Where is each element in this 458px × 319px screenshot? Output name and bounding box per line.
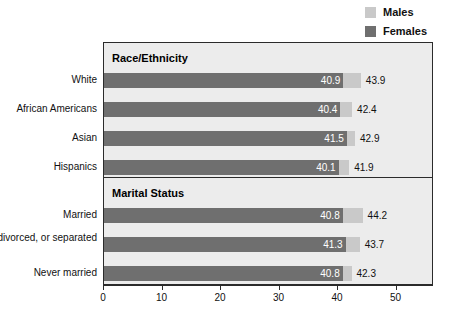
- chart-legend: Males Females: [338, 4, 448, 42]
- x-axis-tick: [220, 285, 221, 290]
- legend-label-females: Females: [383, 26, 427, 37]
- value-male-asian: 42.9: [355, 132, 379, 145]
- row-label-white: White: [0, 74, 97, 85]
- x-axis-tick-label: 0: [100, 292, 106, 304]
- panel-race-ethnicity: Race/Ethnicity 40.9 43.9 40.4 42.4 41.5 …: [104, 43, 432, 177]
- bar-row-hispanics: 40.1 41.9: [104, 160, 434, 175]
- bar-female-white: [104, 73, 343, 88]
- bar-female-widowed-divorced-separated: [104, 237, 346, 252]
- value-male-never-married: 42.3: [352, 267, 376, 280]
- chart-plot-area: Race/Ethnicity 40.9 43.9 40.4 42.4 41.5 …: [103, 42, 433, 285]
- x-axis: 01020304050: [103, 285, 433, 315]
- bar-female-hispanics: [104, 160, 339, 175]
- legend-label-males: Males: [383, 7, 414, 18]
- bar-row-african-americans: 40.4 42.4: [104, 102, 434, 117]
- value-female-white: 40.9: [321, 74, 343, 87]
- value-female-never-married: 40.8: [320, 267, 342, 280]
- panel-marital-status: Marital Status 40.8 44.2 41.3 43.7 40.8 …: [104, 178, 432, 284]
- x-axis-tick-label: 50: [390, 292, 401, 304]
- bar-female-asian: [104, 131, 347, 146]
- value-female-asian: 41.5: [324, 132, 346, 145]
- value-female-hispanics: 40.1: [316, 161, 338, 174]
- row-label-never-married: Never married: [0, 267, 97, 278]
- row-label-asian: Asian: [0, 132, 97, 143]
- legend-item-females: Females: [338, 23, 448, 39]
- bar-row-asian: 41.5 42.9: [104, 131, 434, 146]
- value-female-african-americans: 40.4: [318, 103, 340, 116]
- legend-item-males: Males: [338, 4, 448, 20]
- row-label-married: Married: [0, 209, 97, 220]
- panel-title-race-ethnicity: Race/Ethnicity: [112, 52, 188, 64]
- row-label-widowed-divorced-separated: Widowed, divorced, or separated: [0, 232, 97, 243]
- x-axis-tick-label: 30: [273, 292, 284, 304]
- bar-row-never-married: 40.8 42.3: [104, 266, 434, 281]
- x-axis-tick: [396, 285, 397, 290]
- legend-swatch-females-icon: [365, 26, 376, 37]
- bar-female-never-married: [104, 266, 343, 281]
- x-axis-tick-label: 40: [331, 292, 342, 304]
- value-male-hispanics: 41.9: [349, 161, 373, 174]
- panel-title-marital-status: Marital Status: [112, 187, 184, 199]
- legend-swatch-males-icon: [365, 7, 376, 18]
- x-axis-tick: [162, 285, 163, 290]
- bar-row-married: 40.8 44.2: [104, 208, 434, 223]
- bar-row-white: 40.9 43.9: [104, 73, 434, 88]
- x-axis-tick: [103, 285, 104, 290]
- value-male-married: 44.2: [363, 209, 387, 222]
- bar-female-african-americans: [104, 102, 340, 117]
- value-male-white: 43.9: [361, 74, 385, 87]
- value-female-widowed-divorced-separated: 41.3: [323, 238, 345, 251]
- bar-female-married: [104, 208, 343, 223]
- x-axis-tick: [337, 285, 338, 290]
- x-axis-tick: [279, 285, 280, 290]
- row-label-hispanics: Hispanics: [0, 161, 97, 172]
- row-label-african-americans: African Americans: [0, 103, 97, 114]
- x-axis-line: [103, 285, 433, 286]
- value-male-african-americans: 42.4: [352, 103, 376, 116]
- value-female-married: 40.8: [320, 209, 342, 222]
- value-male-widowed-divorced-separated: 43.7: [360, 238, 384, 251]
- bar-row-widowed-divorced-separated: 41.3 43.7: [104, 237, 434, 252]
- x-axis-tick-label: 10: [156, 292, 167, 304]
- x-axis-tick-label: 20: [214, 292, 225, 304]
